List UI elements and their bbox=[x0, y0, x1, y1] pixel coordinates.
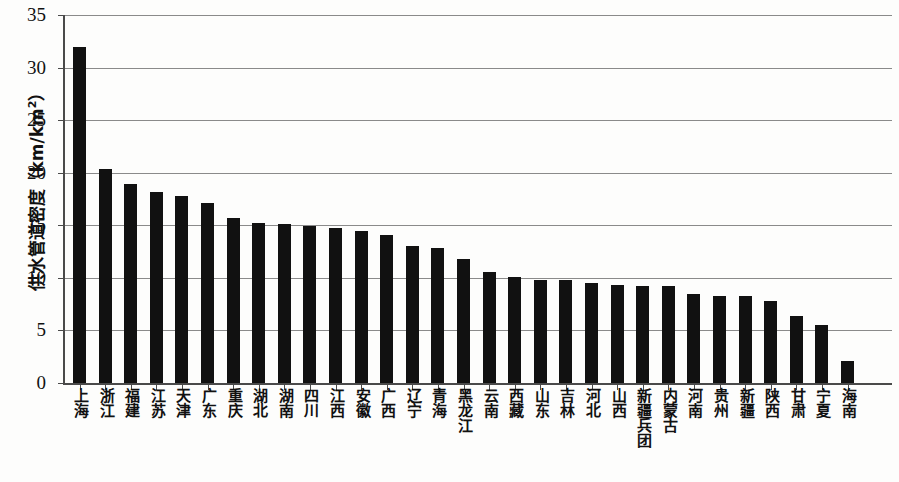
y-axis-tick bbox=[58, 383, 65, 384]
bar bbox=[303, 226, 316, 383]
y-axis-tick bbox=[58, 278, 65, 279]
x-axis-category-label: 广东 bbox=[197, 388, 217, 418]
x-axis-category-label: 重庆 bbox=[222, 388, 242, 418]
x-axis-category-label: 甘肃 bbox=[785, 388, 805, 418]
y-axis-tick-label: 20 bbox=[27, 162, 46, 184]
y-axis-tick-label: 30 bbox=[27, 57, 46, 79]
x-axis-category-label: 青海 bbox=[427, 388, 447, 418]
bar bbox=[355, 231, 368, 383]
x-axis-category-label: 江苏 bbox=[145, 388, 165, 418]
x-axis-category-label: 贵州 bbox=[709, 388, 729, 418]
bar bbox=[534, 280, 547, 383]
bar bbox=[739, 296, 752, 383]
x-axis-category-label: 浙江 bbox=[94, 388, 114, 418]
x-axis-category-label: 河南 bbox=[683, 388, 703, 418]
x-axis-category-label: 吉林 bbox=[555, 388, 575, 418]
bar bbox=[124, 184, 137, 383]
bar bbox=[252, 223, 265, 383]
y-axis-tick-label: 10 bbox=[27, 267, 46, 289]
x-axis-category-label: 陕西 bbox=[760, 388, 780, 418]
x-axis-category-label: 山西 bbox=[606, 388, 626, 418]
bar bbox=[431, 248, 444, 383]
bar bbox=[764, 301, 777, 383]
bar bbox=[457, 259, 470, 383]
y-axis-tick-label: 35 bbox=[27, 4, 46, 26]
y-axis-tick bbox=[58, 68, 65, 69]
x-axis-category-label: 新疆 bbox=[734, 388, 754, 418]
bar bbox=[611, 285, 624, 383]
y-axis-tick bbox=[58, 173, 65, 174]
y-axis-tick-labels: 05101520253035 bbox=[0, 0, 52, 482]
x-axis-category-label: 黑龙江 bbox=[453, 388, 473, 433]
plot-area bbox=[63, 15, 892, 385]
x-axis-category-label: 西藏 bbox=[504, 388, 524, 418]
x-axis-category-label: 山东 bbox=[529, 388, 549, 418]
x-axis-category-label: 新疆兵团 bbox=[632, 388, 652, 448]
bar bbox=[662, 286, 675, 383]
supply-pipe-density-bar-chart: 供水管道密度（km/km2） 05101520253035 上海浙江福建江苏天津… bbox=[0, 0, 899, 482]
bar bbox=[329, 228, 342, 383]
x-axis-category-label: 宁夏 bbox=[811, 388, 831, 418]
x-axis-category-label: 安徽 bbox=[350, 388, 370, 418]
bar bbox=[73, 47, 86, 383]
bar bbox=[790, 316, 803, 383]
bar bbox=[508, 277, 521, 383]
bar bbox=[99, 169, 112, 383]
x-axis-category-label: 四川 bbox=[299, 388, 319, 418]
y-axis-tick-label: 5 bbox=[37, 319, 47, 341]
y-axis-tick bbox=[58, 225, 65, 226]
x-axis-category-label: 河北 bbox=[581, 388, 601, 418]
y-axis-tick-label: 25 bbox=[27, 109, 46, 131]
bar bbox=[278, 224, 291, 383]
bar bbox=[585, 283, 598, 383]
bar bbox=[559, 280, 572, 383]
x-axis-category-label: 辽宁 bbox=[401, 388, 421, 418]
bar bbox=[841, 361, 854, 383]
y-axis-tick bbox=[58, 120, 65, 121]
x-axis-category-label: 上海 bbox=[69, 388, 89, 418]
bar bbox=[483, 272, 496, 383]
y-axis-tick bbox=[58, 330, 65, 331]
x-axis-category-label: 福建 bbox=[120, 388, 140, 418]
x-axis-category-label: 湖南 bbox=[273, 388, 293, 418]
y-axis-tick-label: 0 bbox=[37, 372, 47, 394]
bar bbox=[175, 196, 188, 383]
x-axis-category-label: 云南 bbox=[478, 388, 498, 418]
bar bbox=[201, 203, 214, 383]
x-axis-category-label: 内蒙古 bbox=[657, 388, 677, 433]
bar bbox=[150, 192, 163, 383]
bar bbox=[687, 294, 700, 383]
y-axis-tick bbox=[58, 15, 65, 16]
bar bbox=[636, 286, 649, 383]
x-axis-category-label: 江西 bbox=[325, 388, 345, 418]
y-axis-tick-label: 15 bbox=[27, 214, 46, 236]
bar bbox=[713, 296, 726, 383]
bar bbox=[815, 325, 828, 383]
bar bbox=[406, 246, 419, 383]
x-axis-category-label: 广西 bbox=[376, 388, 396, 418]
x-axis-category-label: 海南 bbox=[837, 388, 857, 418]
x-axis-category-labels: 上海浙江福建江苏天津广东重庆湖北湖南四川江西安徽广西辽宁青海黑龙江云南西藏山东吉… bbox=[63, 388, 890, 482]
bar bbox=[380, 235, 393, 383]
x-axis-category-label: 湖北 bbox=[248, 388, 268, 418]
x-axis-category-label: 天津 bbox=[171, 388, 191, 418]
bar bbox=[227, 218, 240, 383]
bar-series bbox=[65, 15, 892, 383]
